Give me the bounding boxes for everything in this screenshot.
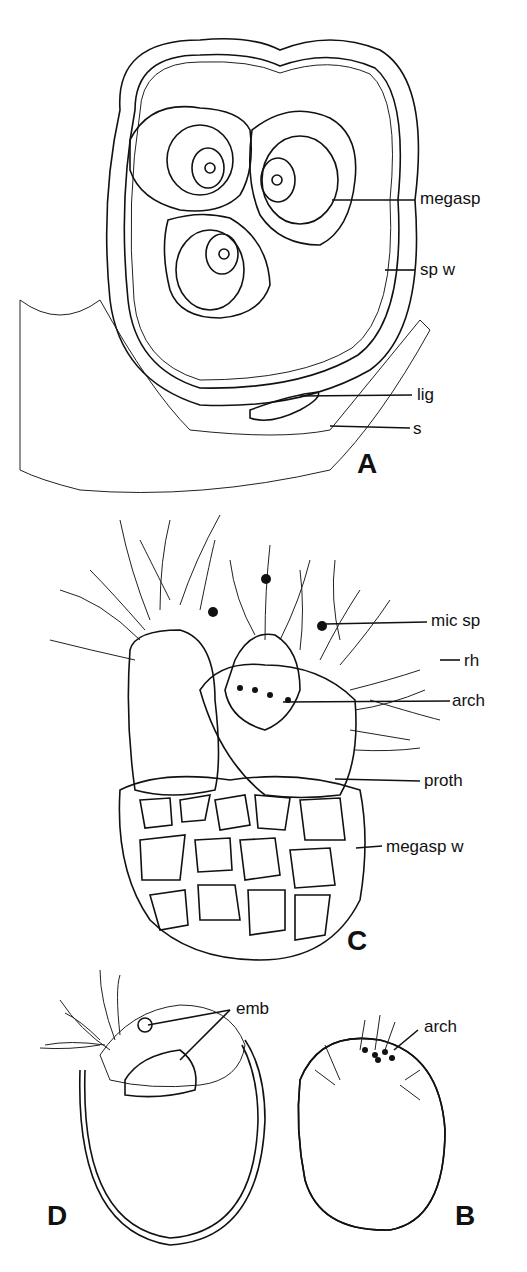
panel-a-drawing xyxy=(20,39,430,493)
panel-d-drawing xyxy=(40,970,265,1245)
label-embryo: emb xyxy=(236,1000,269,1017)
label-megaspore-wall: megasp w xyxy=(386,838,463,855)
label-sporangium-wall: sp w xyxy=(420,261,455,278)
panel-b-drawing xyxy=(298,1015,445,1230)
label-rhizoid: rh xyxy=(464,652,479,669)
panel-label-d: D xyxy=(47,1200,67,1232)
panel-label-b: B xyxy=(455,1200,475,1232)
label-prothallus: proth xyxy=(424,772,463,789)
megaspore-tetrad xyxy=(130,107,356,318)
label-sporophyll: s xyxy=(413,420,422,437)
label-ligule: lig xyxy=(417,386,434,403)
label-archegonium-c: arch xyxy=(452,692,485,709)
panel-label-c: C xyxy=(347,925,367,957)
panel-label-a: A xyxy=(357,448,377,480)
panel-c-drawing xyxy=(50,515,460,960)
label-microspore: mic sp xyxy=(431,612,480,629)
label-megasp: megasp xyxy=(420,190,480,207)
label-archegonium-b: arch xyxy=(424,1018,457,1035)
